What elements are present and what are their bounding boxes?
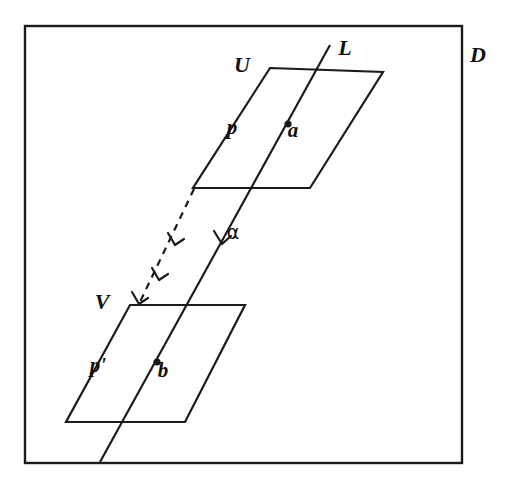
domain-frame-rect — [25, 26, 462, 463]
label-path-p-prime: p' — [88, 353, 107, 377]
dashed-map-arrow-shaft — [139, 189, 194, 304]
line-L-stroke — [100, 45, 330, 462]
dashed-arrowhead-lower-icon — [132, 292, 148, 304]
dashed-arrowhead-upper-icon — [168, 233, 184, 245]
label-line-L: L — [337, 35, 351, 60]
label-point-a: a — [288, 118, 299, 142]
label-alpha: α — [227, 221, 240, 243]
diagram-canvas: D L U V p p' a b α — [0, 0, 510, 489]
geometry-diagram: D L U V p p' a b α — [0, 0, 510, 489]
label-point-b: b — [158, 358, 169, 382]
label-domain-D: D — [469, 42, 486, 67]
label-plane-U: U — [234, 52, 251, 77]
dashed-arrowhead-middle-icon — [152, 268, 168, 280]
label-plane-V: V — [95, 289, 112, 314]
label-path-p-prime-group: p' — [88, 353, 107, 377]
label-path-p: p — [225, 115, 238, 139]
